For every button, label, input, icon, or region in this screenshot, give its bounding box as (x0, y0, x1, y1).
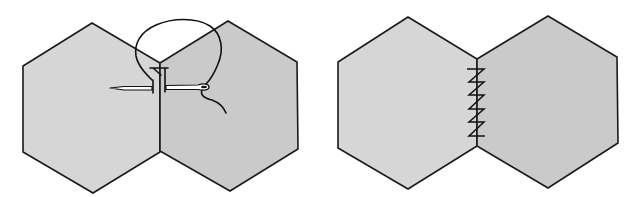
hexagon-right-step-2 (477, 16, 618, 188)
hexagon-stitching-diagram (0, 0, 629, 197)
panel-step-2 (338, 16, 618, 189)
needle-eye-hole (201, 86, 207, 88)
panel-step-1 (23, 20, 298, 194)
hexagon-left-step-1 (23, 23, 160, 193)
hexagon-left-step-2 (338, 17, 477, 189)
needle-tip (110, 87, 152, 91)
hexagon-right-step-1 (160, 21, 298, 191)
